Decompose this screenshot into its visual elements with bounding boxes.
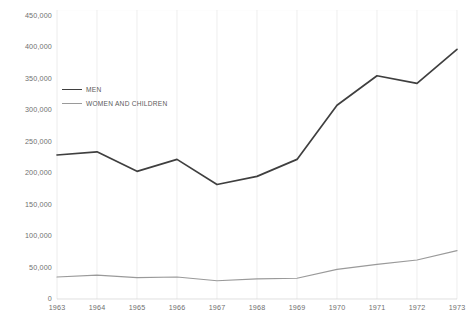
legend-item-women-and-children: WOMEN AND CHILDREN [62,98,222,109]
legend-label-men: MEN [86,86,101,94]
x-axis-tick-label: 1969 [277,303,317,312]
x-axis-tick-label: 1968 [237,303,277,312]
x-axis-tick-label: 1963 [37,303,77,312]
chart-legend: MEN WOMEN AND CHILDREN [62,84,222,112]
legend-label-women-and-children: WOMEN AND CHILDREN [86,100,167,108]
x-axis-tick-label: 1972 [397,303,437,312]
x-axis-tick-label: 1964 [77,303,117,312]
x-axis-tick-label: 1970 [317,303,357,312]
x-axis-tick-label: 1967 [197,303,237,312]
legend-item-men: MEN [62,84,222,95]
x-axis-tick-label: 1966 [157,303,197,312]
x-axis: 1963196419651966196719681969197019711972… [0,303,465,323]
vertical-gridlines [57,10,457,299]
x-axis-tick-label: 1965 [117,303,157,312]
x-axis-tick-label: 1973 [437,303,470,312]
legend-swatch-men-icon [62,89,82,90]
legend-swatch-women-and-children-icon [62,103,82,104]
x-axis-tick-label: 1971 [357,303,397,312]
